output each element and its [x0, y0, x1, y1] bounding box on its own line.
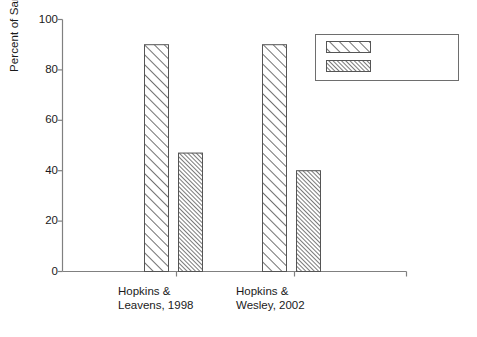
bars-group	[145, 45, 321, 272]
bar	[145, 45, 169, 272]
bar-chart: Percent of Sample 020406080100 Hopkins &…	[0, 0, 477, 337]
legend-swatch-food-beg	[327, 42, 371, 53]
legend-swatch-whole-hand	[327, 61, 371, 72]
legend	[316, 35, 459, 81]
bar	[263, 45, 287, 272]
bar	[297, 171, 321, 272]
plot-area	[0, 0, 477, 337]
bar	[179, 153, 203, 271]
